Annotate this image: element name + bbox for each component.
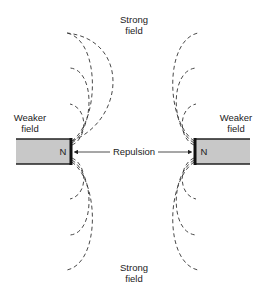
label-line: field [118,25,150,36]
label-line: Weaker [218,112,254,123]
label-line: field [218,123,254,134]
label-line: Weaker [12,112,48,123]
left-pole-label: N [58,146,68,157]
right-weaker-field-label: Weaker field [218,112,254,134]
label-line: Strong [118,262,150,273]
label-line: field [118,273,150,284]
right-pole-label: N [199,146,209,157]
bottom-strong-field-label: Strong field [118,262,150,284]
repulsion-label: Repulsion [110,146,158,157]
label-line: Strong [118,14,150,25]
left-weaker-field-label: Weaker field [12,112,48,134]
top-strong-field-label: Strong field [118,14,150,36]
label-line: field [12,123,48,134]
